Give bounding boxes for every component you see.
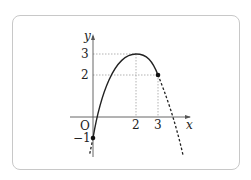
point-3-2 [156, 73, 161, 78]
x-tick-3: 3 [154, 118, 162, 132]
guide-lines [93, 54, 158, 117]
point-0-neg1 [91, 136, 96, 141]
y-tick-neg1: −1 [73, 131, 91, 145]
y-tick-2: 2 [81, 68, 89, 82]
y-axis-label: y [83, 29, 91, 43]
curve-solid-part [93, 54, 158, 138]
y-axis-arrow-icon [91, 34, 95, 40]
function-graph: y x O 3 2 −1 2 3 [0, 0, 251, 180]
curve-dashed-right [158, 75, 183, 155]
x-tick-2: 2 [132, 118, 140, 132]
x-axis-label: x [186, 118, 193, 132]
y-tick-3: 3 [81, 47, 89, 61]
